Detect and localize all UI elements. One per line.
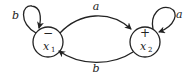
edge-label-x1-x2: a	[93, 0, 100, 13]
state-label-x2: x	[140, 40, 147, 53]
state-subscript-x1: 1	[51, 46, 55, 54]
state-x1: − x 1	[33, 26, 63, 57]
final-marker: +	[140, 26, 150, 40]
edge-label-x2-x1: b	[92, 62, 99, 73]
automaton-diagram: − x 1 + x 2 b a a b	[0, 0, 188, 73]
edge-label-x2-x2: a	[176, 8, 183, 21]
edge-x2-x1: b	[59, 51, 133, 73]
state-x2: + x 2	[130, 26, 160, 57]
edge-label-x1-x1: b	[12, 9, 19, 22]
start-marker: −	[43, 26, 53, 40]
edge-x1-x2: a	[60, 0, 131, 33]
self-loop-x2: a	[152, 7, 182, 32]
self-loop-x1: b	[12, 6, 40, 33]
state-subscript-x2: 2	[148, 46, 152, 54]
state-label-x1: x	[43, 40, 50, 53]
